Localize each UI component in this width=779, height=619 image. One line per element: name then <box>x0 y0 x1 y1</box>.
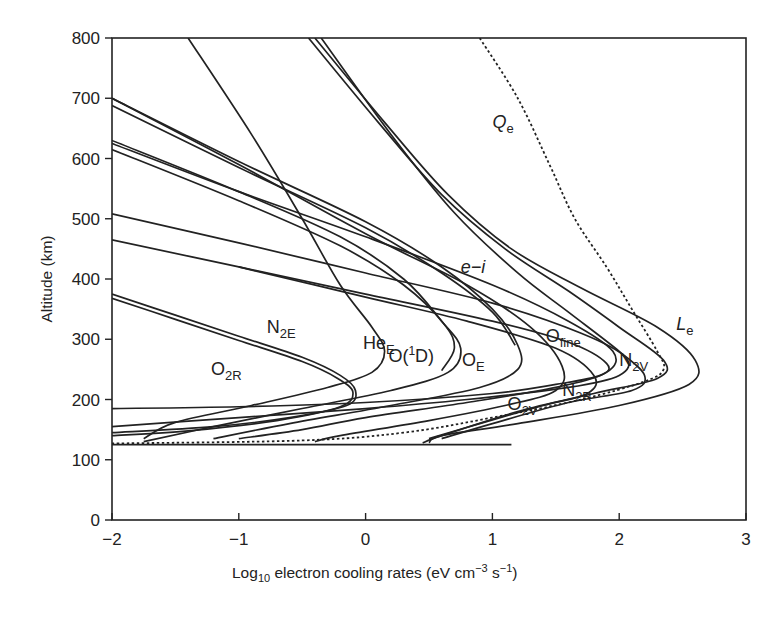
y-tick-label: 100 <box>72 451 100 470</box>
cooling-rates-chart: −2−10123 0100200300400500600700800 Qee−i… <box>0 0 779 619</box>
label-n2e: N2E <box>267 317 296 341</box>
curve-e-i <box>309 38 668 443</box>
curve-oe-b <box>112 105 515 345</box>
label-o2r: O2R <box>211 359 242 383</box>
curve-n2e <box>112 240 609 409</box>
y-tick-label: 800 <box>72 29 100 48</box>
y-tick-label: 400 <box>72 270 100 289</box>
y-tick-label: 500 <box>72 210 100 229</box>
x-tick-label: 0 <box>361 530 370 549</box>
x-axis-ticks: −2−10123 <box>102 513 750 549</box>
label-le: Le <box>676 314 693 338</box>
plot-frame <box>112 38 746 520</box>
x-tick-label: 3 <box>741 530 750 549</box>
label-o1d: O(1D) <box>388 344 434 366</box>
x-tick-label: −1 <box>229 530 248 549</box>
y-tick-label: 300 <box>72 330 100 349</box>
y-tick-label: 600 <box>72 150 100 169</box>
label-e-i: e−i <box>461 257 487 277</box>
x-axis-title: Log10 electron cooling rates (eV cm−3 s−… <box>232 562 518 584</box>
x-tick-label: −2 <box>102 530 121 549</box>
y-axis-title: Altitude (km) <box>38 236 55 323</box>
y-tick-label: 200 <box>72 391 100 410</box>
curve-group <box>112 38 699 445</box>
x-tick-label: 1 <box>488 530 497 549</box>
y-tick-label: 0 <box>91 511 100 530</box>
y-tick-label: 700 <box>72 89 100 108</box>
curve-labels: Qee−iLeN2EHeEO(1D)OEOfineO2RO2VN2RN2V <box>211 112 694 418</box>
x-tick-label: 2 <box>614 530 623 549</box>
curve-o2v <box>112 98 565 441</box>
y-axis-ticks: 0100200300400500600700800 <box>72 29 112 530</box>
label-qe: Qe <box>492 112 513 136</box>
curve-hee <box>144 38 385 439</box>
curve-o2r-b <box>112 298 353 435</box>
label-oe: OE <box>462 350 485 374</box>
label-n2v: N2V <box>619 350 648 374</box>
curve-o1d <box>112 140 461 441</box>
